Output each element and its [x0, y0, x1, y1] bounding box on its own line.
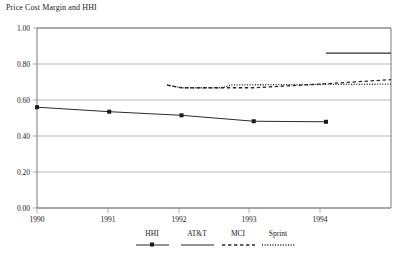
- y-tick-label-1.00: 1.00: [17, 24, 30, 33]
- x-tick-label-1992: 1992: [172, 215, 187, 224]
- series-mci: [167, 80, 391, 88]
- series-sprint: [167, 84, 391, 88]
- legend-swatch-hhi-marker: [150, 243, 154, 247]
- legend-swatch-hhi: [136, 243, 169, 247]
- series-line: [167, 84, 391, 88]
- y-tick-label-0.40: 0.40: [17, 132, 30, 141]
- legend-label-hhi: HHI: [145, 229, 159, 238]
- data-point-marker: [35, 105, 39, 109]
- x-tick-label-1994: 1994: [313, 215, 328, 224]
- x-tick-label-1990: 1990: [30, 215, 45, 224]
- legend-label-sprint: Sprint: [269, 229, 288, 238]
- series-line: [167, 80, 391, 88]
- legend-label-mci: MCI: [231, 229, 246, 238]
- x-tick-label-1993: 1993: [242, 215, 257, 224]
- y-tick-label-0.80: 0.80: [17, 60, 30, 69]
- data-point-marker: [324, 120, 328, 124]
- x-axis-labels: 1990 1991 1992 1993 1994: [30, 215, 328, 224]
- chart-plot-area: 1.00 0.80 0.60 0.40 0.20 0.00 1990 1991 …: [0, 0, 405, 255]
- y-tick-label-0.20: 0.20: [17, 168, 30, 177]
- chart-container: Price Cost Margin and HHI: [0, 0, 405, 255]
- series-hhi: [35, 105, 328, 124]
- data-point-marker: [179, 113, 183, 117]
- x-tick-label-1991: 1991: [101, 215, 116, 224]
- x-tickmarks: [37, 208, 320, 213]
- y-tickmarks: [33, 28, 37, 208]
- chart-legend: HHI AT&T MCI Sprint: [136, 229, 295, 247]
- data-point-marker: [107, 110, 111, 114]
- y-tick-label-0.00: 0.00: [17, 204, 30, 213]
- y-axis-labels: 1.00 0.80 0.60 0.40 0.20 0.00: [17, 24, 30, 213]
- legend-label-att: AT&T: [187, 229, 207, 238]
- data-point-marker: [252, 119, 256, 123]
- y-tick-label-0.60: 0.60: [17, 96, 30, 105]
